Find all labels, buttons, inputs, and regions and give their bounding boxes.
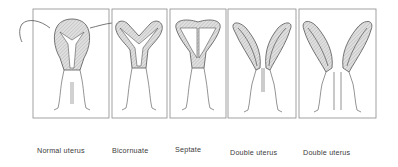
panel-septate-uterus [170, 9, 226, 118]
uterus-body [176, 20, 220, 68]
caption-line: Double uterus [230, 149, 277, 157]
vaginal-septum [71, 82, 73, 104]
caption-line: Normal uterus [37, 147, 85, 155]
panel-double-uterus-septate-vagina [228, 9, 296, 118]
caption-normal-uterus-septate-vagina: Normal uterus and septate vagina [37, 130, 85, 167]
vaginal-septum [262, 68, 264, 92]
left-vagina [314, 72, 334, 112]
caption-line: Septate [175, 146, 201, 154]
vagina [244, 70, 282, 112]
left-uterus [303, 21, 332, 72]
vagina [182, 68, 214, 110]
caption-line: Bicornuate [112, 147, 148, 155]
right-uterus [343, 21, 372, 72]
uterine-cavity [120, 28, 158, 66]
vagina [54, 70, 90, 110]
panel-double-uterus-and-vagina [299, 9, 376, 118]
panel-bicornuate-uterus [112, 9, 167, 118]
caption-note-uterus-didelphis: ('uterus didelphis') [297, 156, 359, 167]
right-vagina [341, 72, 361, 112]
caption-septate-uterus: Septate uterus [175, 129, 201, 167]
caption-double-uterus-septate-vagina: Double uterus and septate vagina [230, 132, 277, 167]
vagina [122, 68, 156, 110]
fallopian-tube-left [20, 21, 50, 42]
caption-bicornuate-uterus: Bicornuate uterus [112, 130, 148, 167]
panel-normal-uterus-septate-vagina [20, 9, 112, 118]
